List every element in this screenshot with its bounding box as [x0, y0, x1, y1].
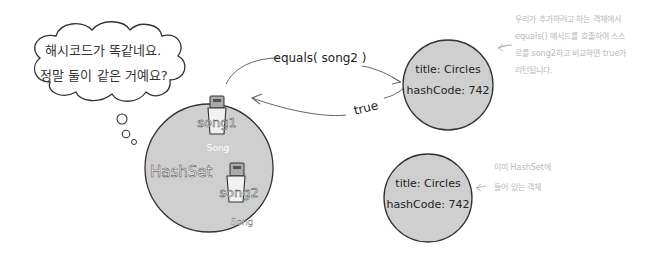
annotation-bottom-line-2: 들어 있는 객체: [494, 182, 541, 192]
object-circle-existing: title: Circles hashCode: 742: [384, 154, 472, 242]
annotation-top: 우리가 추가하려고 하는 객체에서 equals() 메서드를 호출하여 스스 …: [498, 14, 627, 75]
diagram-canvas: 해시코드가 똑같네요. 정말 둘이 같은 거예요? HashSet song1 …: [0, 0, 657, 256]
song1-type: Song: [207, 143, 230, 153]
remote-icon: [230, 163, 244, 176]
song1-label: song1: [197, 115, 237, 130]
song2-type: Song: [231, 217, 254, 227]
equals-call-label: equals( song2 ): [274, 51, 367, 65]
equals-call-arrow: equals( song2 ): [226, 51, 401, 84]
annotation-top-line-3: 로를 song2하고 비교하면 true가: [515, 48, 627, 58]
annotation-bottom-line-1: 이미 HashSet에: [494, 162, 551, 172]
annotation-top-line-4: 리턴됩니다.: [515, 65, 553, 75]
thought-line-1: 해시코드가 똑같네요.: [45, 43, 161, 58]
object-circle-new: title: Circles hashCode: 742: [403, 40, 493, 130]
true-return-arrow: true: [252, 87, 406, 118]
annotation-top-line-2: equals() 메서드를 호출하여 스스: [515, 31, 625, 41]
object-new-title: title: Circles: [415, 63, 481, 76]
object-new-hashcode: hashCode: 742: [407, 84, 490, 97]
object-existing-hashcode: hashCode: 742: [387, 198, 470, 211]
annotation-bottom: 이미 HashSet에 들어 있는 객체: [476, 162, 551, 192]
thought-dot-medium: [122, 130, 130, 138]
thought-line-2: 정말 둘이 같은 거예요?: [40, 68, 167, 83]
thought-dot-large: [117, 114, 127, 124]
thought-dot-small: [132, 140, 137, 145]
hashset-label: HashSet: [150, 163, 213, 181]
true-return-label: true: [352, 98, 379, 118]
object-existing-title: title: Circles: [395, 177, 461, 190]
annotation-top-line-1: 우리가 추가하려고 하는 객체에서: [515, 14, 621, 24]
song2-label: song2: [219, 185, 259, 200]
